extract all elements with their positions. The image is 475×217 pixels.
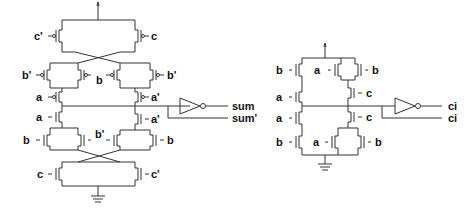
sum-circuit	[36, 2, 212, 202]
label-b-prime: b'	[167, 69, 177, 81]
output-sum-prime: sum'	[232, 112, 258, 124]
label-a: a	[36, 91, 43, 103]
ground-icon	[91, 186, 105, 202]
label-c: c	[37, 168, 43, 180]
label-b-prime: b'	[95, 128, 105, 140]
label-b: b	[167, 134, 174, 146]
carry-output-leads	[420, 106, 442, 118]
output-ci-prime: ci	[448, 112, 457, 124]
label-a-prime: a'	[151, 91, 160, 103]
label-b: b	[96, 74, 103, 86]
output-sum: sum	[232, 100, 255, 112]
output-ci: ci	[448, 100, 457, 112]
output-leads	[212, 106, 228, 118]
vdd-arrow-icon	[324, 43, 326, 58]
label-b: b	[375, 136, 382, 148]
schematic-canvas: c' c b' b b' a a' a a' b b' b c c' sum s…	[0, 0, 475, 217]
pmos-c-prime	[59, 20, 62, 52]
label-a-prime: a'	[151, 113, 160, 125]
label-c: c	[366, 111, 372, 123]
label-b-prime: b'	[22, 69, 32, 81]
carry-circuit	[289, 43, 430, 170]
inverter-carry-icon	[395, 98, 415, 114]
vdd-arrow-icon	[97, 2, 99, 20]
full-adder-schematic: c' c b' b b' a a' a a' b b' b c c' sum s…	[0, 0, 475, 217]
label-a: a	[36, 111, 43, 123]
ground-icon	[318, 155, 332, 170]
label-b: b	[276, 64, 283, 76]
label-b: b	[276, 136, 283, 148]
pmos-c	[135, 20, 138, 52]
label-c: c	[366, 87, 372, 99]
label-c-prime: c'	[151, 168, 160, 180]
label-a: a	[276, 91, 283, 103]
label-a: a	[276, 112, 283, 124]
label-a: a	[314, 64, 321, 76]
label-a: a	[313, 136, 320, 148]
label-c: c	[151, 30, 157, 42]
label-b: b	[372, 64, 379, 76]
label-b: b	[23, 134, 30, 146]
label-c-prime: c'	[34, 30, 43, 42]
